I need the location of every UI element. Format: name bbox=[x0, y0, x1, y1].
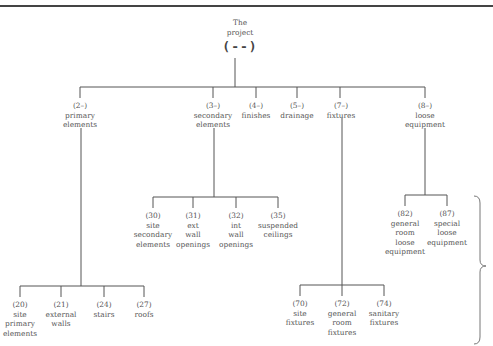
node-label: general bbox=[328, 309, 357, 319]
node-20-site-primary-elements: (20) site primary elements bbox=[3, 300, 37, 338]
node-label: elements bbox=[3, 329, 37, 339]
node-finishes: (4–) finishes bbox=[242, 101, 271, 120]
node-fixtures: (7–) fixtures bbox=[327, 101, 356, 120]
node-code: (5–) bbox=[280, 101, 313, 111]
node-31-ext-wall-openings: (31) ext wall openings bbox=[176, 211, 210, 249]
node-secondary-elements: (3–) secondary elements bbox=[194, 101, 232, 130]
node-27-roofs: (27) roofs bbox=[135, 300, 154, 319]
root-node-title: The project bbox=[227, 18, 254, 37]
node-74-sanitary-fixtures: (74) sanitary fixtures bbox=[369, 299, 399, 328]
node-label: loose bbox=[427, 228, 467, 238]
node-label: suspended bbox=[258, 221, 298, 231]
node-label: drainage bbox=[280, 111, 313, 121]
node-label: site bbox=[134, 221, 172, 231]
node-label: special bbox=[427, 219, 467, 229]
node-label: external bbox=[46, 310, 77, 320]
node-label: secondary bbox=[134, 230, 172, 240]
node-code: (74) bbox=[369, 299, 399, 309]
node-35-suspended-ceilings: (35) suspended ceilings bbox=[258, 211, 298, 240]
node-70-site-fixtures: (70) site fixtures bbox=[286, 299, 315, 328]
node-label: elements bbox=[194, 120, 232, 130]
node-label: sanitary bbox=[369, 309, 399, 319]
node-82-general-room-loose-equipment: (82) general room loose equipment bbox=[385, 209, 425, 257]
node-label: room bbox=[385, 228, 425, 238]
node-label: primary bbox=[63, 111, 97, 121]
root-title-line1: The bbox=[233, 18, 247, 27]
node-87-special-loose-equipment: (87) special loose equipment bbox=[427, 209, 467, 247]
node-label: loose bbox=[405, 111, 445, 121]
node-label: finishes bbox=[242, 111, 271, 121]
node-code: (30) bbox=[134, 211, 172, 221]
node-code: (24) bbox=[94, 300, 115, 310]
node-21-external-walls: (21) external walls bbox=[46, 300, 77, 329]
node-code: (72) bbox=[328, 299, 357, 309]
root-node-code: (--) bbox=[222, 39, 257, 54]
node-label: equipment bbox=[385, 247, 425, 257]
node-label: wall bbox=[219, 230, 253, 240]
node-code: (82) bbox=[385, 209, 425, 219]
node-label: openings bbox=[176, 240, 210, 250]
node-label: roofs bbox=[135, 310, 154, 320]
node-label: elements bbox=[63, 120, 97, 130]
root-title-line2: project bbox=[227, 28, 254, 37]
node-label: general bbox=[385, 219, 425, 229]
node-code: (4–) bbox=[242, 101, 271, 111]
node-label: wall bbox=[176, 230, 210, 240]
node-label: fixtures bbox=[286, 318, 315, 328]
node-label: openings bbox=[219, 240, 253, 250]
node-primary-elements: (2–) primary elements bbox=[63, 101, 97, 130]
node-label: equipment bbox=[405, 120, 445, 130]
node-code: (8–) bbox=[405, 101, 445, 111]
node-24-stairs: (24) stairs bbox=[94, 300, 115, 319]
node-label: fixtures bbox=[328, 328, 357, 338]
node-code: (31) bbox=[176, 211, 210, 221]
node-code: (7–) bbox=[327, 101, 356, 111]
node-label: stairs bbox=[94, 310, 115, 320]
node-code: (2–) bbox=[63, 101, 97, 111]
node-code: (35) bbox=[258, 211, 298, 221]
node-72-general-room-fixtures: (72) general room fixtures bbox=[328, 299, 357, 337]
node-code: (32) bbox=[219, 211, 253, 221]
node-code: (70) bbox=[286, 299, 315, 309]
node-code: (27) bbox=[135, 300, 154, 310]
node-label: elements bbox=[134, 240, 172, 250]
node-drainage: (5–) drainage bbox=[280, 101, 313, 120]
node-label: fixtures bbox=[369, 318, 399, 328]
node-label: ext bbox=[176, 221, 210, 231]
node-label: equipment bbox=[427, 238, 467, 248]
node-code: (20) bbox=[3, 300, 37, 310]
node-label: walls bbox=[46, 319, 77, 329]
node-code: (21) bbox=[46, 300, 77, 310]
node-label: secondary bbox=[194, 111, 232, 121]
node-label: loose bbox=[385, 238, 425, 248]
node-label: site bbox=[3, 310, 37, 320]
node-label: site bbox=[286, 309, 315, 319]
node-label: fixtures bbox=[327, 111, 356, 121]
node-label: primary bbox=[3, 319, 37, 329]
node-label: room bbox=[328, 318, 357, 328]
node-loose-equipment: (8–) loose equipment bbox=[405, 101, 445, 130]
node-label: int bbox=[219, 221, 253, 231]
node-code: (87) bbox=[427, 209, 467, 219]
node-32-int-wall-openings: (32) int wall openings bbox=[219, 211, 253, 249]
node-30-site-secondary-elements: (30) site secondary elements bbox=[134, 211, 172, 249]
node-label: ceilings bbox=[258, 230, 298, 240]
node-code: (3–) bbox=[194, 101, 232, 111]
